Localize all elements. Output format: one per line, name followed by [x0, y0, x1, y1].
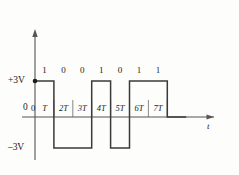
x-axis-title: t [207, 122, 210, 131]
signal-waveform-trace [35, 81, 186, 148]
x-tick-label-4: 4T [92, 104, 110, 113]
voltage-axis-arrow-icon [32, 29, 37, 37]
x-tick-label-1: T [36, 104, 54, 113]
bit-label-3: 1 [94, 66, 108, 75]
bit-label-1: 0 [56, 66, 70, 75]
x-tick-label-5: 5T [111, 104, 129, 113]
y-axis-label-high: +3V [8, 76, 25, 86]
x-tick-text-3: 3T [78, 103, 87, 113]
waveform-start-marker [33, 79, 38, 84]
x-tick-text-2: 2T [59, 103, 68, 113]
x-tick-text-5: 5T [116, 103, 125, 113]
x-tick-text-1: T [42, 103, 47, 113]
x-tick-label-7: 7T [149, 104, 167, 113]
x-tick-text-7: 7T [153, 103, 162, 113]
time-axis-arrow-icon [207, 114, 215, 119]
bit-label-4: 0 [113, 66, 127, 75]
x-tick-text-6: 6T [135, 103, 144, 113]
bit-label-2: 0 [75, 66, 89, 75]
x-tick-label-3: 3T [73, 104, 91, 113]
x-tick-label-2: 2T [54, 104, 72, 113]
waveform-figure: +3V 0 –3V 1 0 0 1 0 1 1 0 T 2T 3T 4T 5T … [0, 0, 239, 175]
x-tick-text-0: 0 [31, 103, 35, 113]
y-axis-label-low: –3V [8, 143, 24, 153]
waveform-canvas [0, 0, 239, 175]
x-tick-text-4: 4T [97, 103, 106, 113]
bit-label-6: 1 [151, 66, 165, 75]
x-tick-label-6: 6T [130, 104, 148, 113]
voltage-axis [32, 29, 37, 160]
bit-label-0: 1 [38, 66, 52, 75]
bit-label-5: 1 [132, 66, 146, 75]
